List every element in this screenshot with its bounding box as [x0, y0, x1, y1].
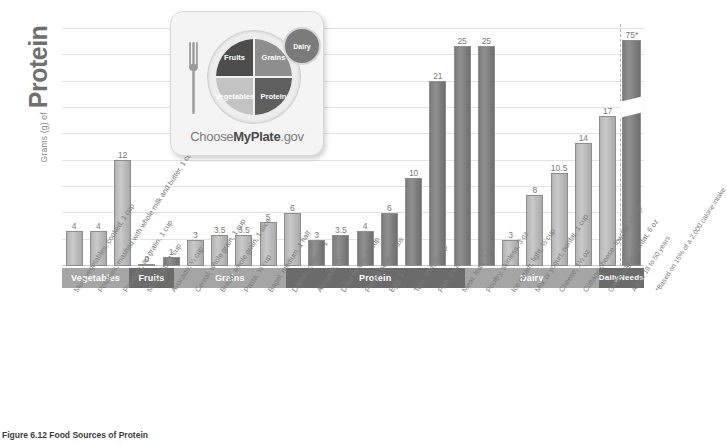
bar-value-label: 4: [72, 221, 77, 231]
bar-value-label: 3: [314, 230, 319, 240]
figure-title: Food Sources of Protein: [49, 430, 148, 440]
bar-value-label: 21: [433, 71, 442, 81]
category-vegetables: Vegetables: [62, 268, 129, 288]
bar-value-label: 4: [96, 221, 101, 231]
plate-section-vegetables: Vegetables: [215, 77, 254, 116]
bar-slot: 3: [499, 28, 523, 266]
y-axis-measure-label: Protein: [24, 26, 53, 109]
brand-post: .gov: [280, 129, 303, 144]
bar-value-label: 4: [363, 221, 368, 231]
bar-value-label: 14: [579, 133, 588, 143]
bar-value-label: 10: [409, 168, 418, 178]
bar-value-label: 25: [457, 36, 466, 46]
bar-slot: 4: [86, 28, 110, 266]
bar[interactable]: 4: [66, 231, 83, 266]
axis-break-marker: [620, 97, 643, 118]
bar[interactable]: 21: [429, 81, 446, 266]
bar-slot: 10: [402, 28, 426, 266]
bar-slot: 6: [377, 28, 401, 266]
bar-value-label: 6: [387, 203, 392, 213]
bar-slot: 4: [353, 28, 377, 266]
bar-value-label: 17: [603, 106, 612, 116]
bar-value-label: 3.5: [214, 225, 226, 235]
bar-slot: 21: [426, 28, 450, 266]
bar-value-label: 10.5: [551, 163, 568, 173]
bar-value-label: 3.5: [335, 225, 347, 235]
brand-mid: MyPlate: [233, 129, 280, 144]
bar-value-label: 3: [508, 230, 513, 240]
bar-slot: 8: [523, 28, 547, 266]
bar-slot: 17: [596, 28, 620, 266]
myplate-logo: Fruits Grains Vegetables Protein Dairy C…: [170, 11, 324, 156]
plate-section-dairy: Dairy: [283, 27, 321, 65]
bar-value-label: 8: [533, 185, 538, 195]
brand-pre: Choose: [190, 129, 233, 144]
bar-slot: 3.5: [329, 28, 353, 266]
fork-icon: [189, 42, 198, 114]
y-axis-unit-label: Grams (g) of: [39, 112, 49, 162]
bar[interactable]: 10: [405, 178, 422, 266]
plate-section-protein: Protein: [254, 77, 293, 116]
figure-number: Figure 6.12: [2, 430, 47, 440]
bar-slot: 25: [474, 28, 498, 266]
bar-slot: 25: [450, 28, 474, 266]
bar-value-label: 3: [193, 230, 198, 240]
bar[interactable]: 25: [478, 46, 495, 266]
bar-series: 44120133.53.55633.546102125253810.514177…: [62, 28, 644, 266]
bar[interactable]: 25: [454, 46, 471, 266]
y-axis-title: Grams (g) of Protein: [24, 0, 52, 194]
myplate-brand: ChooseMyPlate.gov: [171, 129, 323, 144]
plot-area: 44120133.53.55633.546102125253810.514177…: [62, 28, 644, 266]
bar-slot: 4: [62, 28, 86, 266]
bar-value-label: 12: [118, 150, 127, 160]
x-axis-labels: Most vegetables, cooked, 1 cupPotatoes, …: [62, 289, 644, 411]
plate-section-fruits: Fruits: [215, 38, 254, 77]
bar-value-label: 25: [482, 36, 491, 46]
figure-caption: Figure 6.12 Food Sources of Protein: [2, 430, 148, 440]
bar-value-label: 75*: [625, 30, 638, 40]
bar-value-label: 6: [290, 203, 295, 213]
